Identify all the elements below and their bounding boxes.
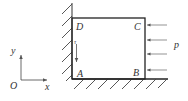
origin-label: O xyxy=(10,80,17,91)
block-between-walls-diagram: D C A B τ p y O x xyxy=(0,0,188,101)
pressure-label-p: p xyxy=(173,39,179,50)
y-axis-label: y xyxy=(10,45,16,56)
corner-label-c: C xyxy=(134,21,141,32)
left-wall-hatching xyxy=(62,4,72,81)
coordinate-axes: y O x xyxy=(10,45,50,92)
x-axis-label: x xyxy=(44,81,50,92)
bottom-floor-support xyxy=(72,79,168,89)
pressure-load-arrows xyxy=(147,25,167,70)
corner-label-b: B xyxy=(133,67,139,78)
corner-label-a: A xyxy=(76,68,84,79)
bottom-floor-hatching xyxy=(74,79,167,89)
left-wall-support xyxy=(62,3,72,81)
shear-stress-arrow: τ xyxy=(74,39,77,62)
corner-label-d: D xyxy=(75,21,84,32)
